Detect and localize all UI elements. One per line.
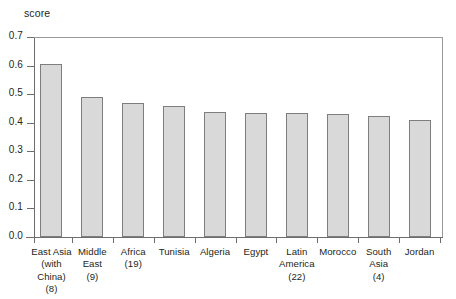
y-axis-tick-mark [27, 180, 34, 181]
x-axis-tick-mark [34, 238, 35, 243]
y-axis-tick-mark [27, 94, 34, 95]
y-axis-tick-mark [27, 66, 34, 67]
y-axis-tick-mark [27, 208, 34, 209]
bar [327, 114, 349, 237]
bar [204, 112, 226, 237]
bar [122, 103, 144, 237]
bar-chart: score 0.00.10.20.30.40.50.60.7 East Asia… [0, 0, 456, 299]
y-axis-tick-mark [27, 151, 34, 152]
plot-frame-right [442, 37, 443, 237]
y-axis-tick-label: 0.7 [9, 30, 23, 42]
y-axis-title: score [24, 7, 50, 19]
y-axis-tick-label: 0.5 [9, 87, 23, 99]
y-axis-tick-label: 0.4 [9, 116, 23, 128]
y-axis-tick-label: 0.2 [9, 173, 23, 185]
bar [81, 97, 103, 237]
bar [409, 120, 431, 237]
x-axis-line [26, 237, 443, 238]
x-axis-tick-mark [399, 238, 400, 243]
x-axis-tick-mark [317, 238, 318, 243]
y-axis-tick-label: 0.0 [9, 230, 23, 242]
bar [163, 106, 185, 237]
plot-frame-top [34, 37, 443, 38]
y-axis-tick-mark [27, 237, 34, 238]
bar [368, 116, 390, 237]
x-axis-tick-mark [440, 238, 441, 243]
x-axis-tick-mark [195, 238, 196, 243]
x-axis-tick-mark [154, 238, 155, 243]
plot-area [34, 37, 443, 237]
y-axis-tick-label: 0.1 [9, 201, 23, 213]
y-axis-tick-mark [27, 123, 34, 124]
x-axis-tick-mark [72, 238, 73, 243]
y-axis-tick-mark [27, 37, 34, 38]
x-axis-tick-mark [236, 238, 237, 243]
x-axis-tick-mark [358, 238, 359, 243]
bar [286, 113, 308, 237]
x-axis-tick-mark [113, 238, 114, 243]
x-axis-tick-mark [276, 238, 277, 243]
x-axis-category-label: Jordan [395, 246, 444, 258]
bar [40, 64, 62, 237]
y-axis-tick-label: 0.3 [9, 144, 23, 156]
bar [245, 113, 267, 237]
y-axis-tick-label: 0.6 [9, 59, 23, 71]
